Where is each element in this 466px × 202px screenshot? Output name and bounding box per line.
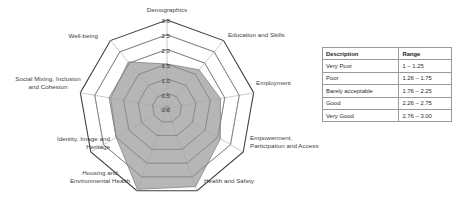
cell-description: Good — [323, 97, 399, 109]
axis-label-well-being: Well-being — [48, 32, 98, 40]
tick-label-0-5: 0.5 — [154, 92, 170, 99]
axis-label-employment: Employment — [256, 79, 318, 87]
axis-label-empowerment-participation-and-access: Empowerment, Participation and Access — [250, 134, 320, 149]
table-row: Good2.26 – 2.75 — [323, 97, 452, 109]
tick-label-0-0: 0.0 — [154, 106, 170, 113]
cell-description: Barely acceptable — [323, 85, 399, 97]
axis-label-social-mixing-inclusion-and-cohesion: Social Mixing, Inclusion and Cohesion — [4, 75, 92, 90]
cell-range: 1.26 – 1.75 — [399, 72, 452, 84]
tick-label-2-5: 2.5 — [154, 32, 170, 39]
radar-chart-figure: Demographics Education and Skills Employ… — [0, 0, 466, 202]
score-range-table: Description Range Very Poor1 – 1.25Poor1… — [322, 47, 452, 122]
axis-label-health-and-safety: Health and Safety — [204, 177, 278, 185]
table-row: Poor1.26 – 1.75 — [323, 72, 452, 84]
radar-chart: Demographics Education and Skills Employ… — [0, 0, 320, 202]
column-header-range: Range — [399, 48, 452, 60]
cell-description: Very Poor — [323, 60, 399, 72]
cell-range: 2.76 – 3.00 — [399, 109, 452, 121]
table-row: Very Good2.76 – 3.00 — [323, 109, 452, 121]
table-row: Barely acceptable1.76 – 2.25 — [323, 85, 452, 97]
cell-range: 1.76 – 2.25 — [399, 85, 452, 97]
table-row: Very Poor1 – 1.25 — [323, 60, 452, 72]
tick-label-2-0: 2.0 — [154, 47, 170, 54]
table-body: Very Poor1 – 1.25Poor1.26 – 1.75Barely a… — [323, 60, 452, 122]
tick-label-1-5: 1.5 — [154, 62, 170, 69]
cell-range: 1 – 1.25 — [399, 60, 452, 72]
tick-label-3-0: 3.0 — [154, 17, 170, 24]
axis-label-identity-image-and-heritage: Identity, Image and Heritage — [30, 135, 110, 150]
axis-label-education-and-skills: Education and Skills — [228, 31, 318, 39]
column-header-description: Description — [323, 48, 399, 60]
cell-description: Poor — [323, 72, 399, 84]
axis-label-housing-and-environmental-health: Housing and Environmental Health — [54, 169, 146, 184]
cell-range: 2.26 – 2.75 — [399, 97, 452, 109]
cell-description: Very Good — [323, 109, 399, 121]
tick-label-1-0: 1.0 — [154, 77, 170, 84]
table-header-row: Description Range — [323, 48, 452, 60]
axis-label-demographics: Demographics — [128, 6, 206, 14]
